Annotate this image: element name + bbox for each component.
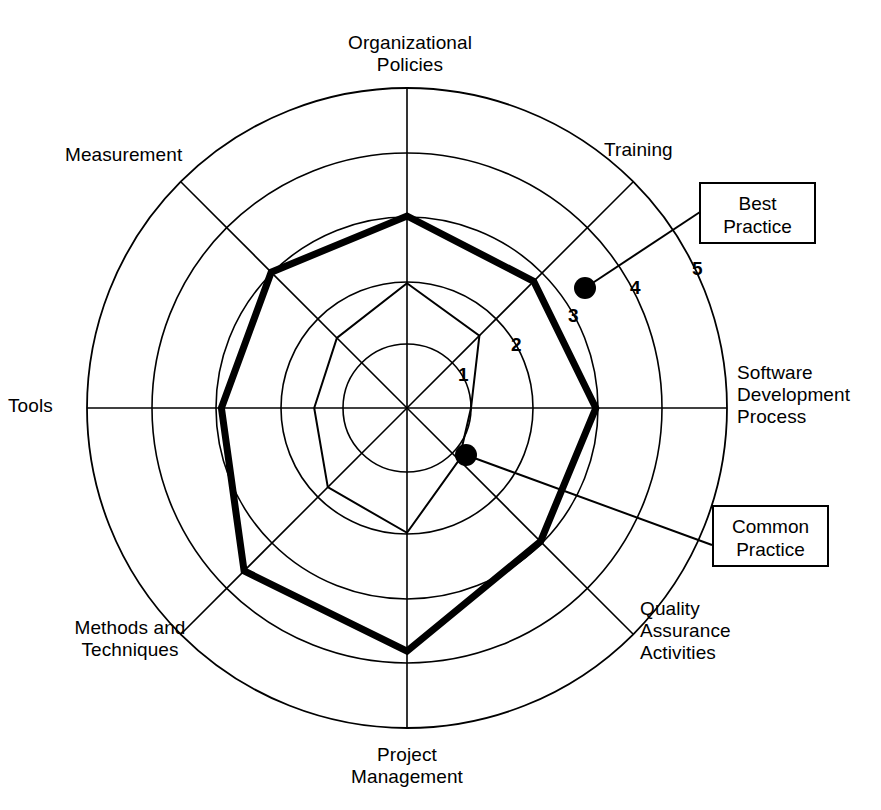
legend-best-practice[interactable]: Best Practice xyxy=(699,182,816,244)
axis-label-organizational-policies: Organizational Policies xyxy=(330,32,490,76)
tick-label-1: 1 xyxy=(458,364,469,386)
tick-label-2: 2 xyxy=(511,334,522,356)
marker-common-practice xyxy=(455,444,477,466)
spoke-methods-and-techniques xyxy=(181,408,407,634)
tick-label-3: 3 xyxy=(568,305,579,327)
axis-label-methods-and-techniques: Methods and Techniques xyxy=(50,617,210,661)
radar-chart: Organizational Policies Training Softwar… xyxy=(0,0,881,810)
spoke-training xyxy=(407,182,633,408)
axis-label-project-management: Project Management xyxy=(327,744,487,788)
leader-line-best-practice xyxy=(585,212,700,288)
tick-label-4: 4 xyxy=(630,277,641,299)
marker-best-practice xyxy=(574,277,596,299)
axis-label-software-development-process: Software Development Process xyxy=(737,362,877,428)
tick-label-5: 5 xyxy=(692,258,703,280)
axis-label-quality-assurance-activities: Quality Assurance Activities xyxy=(640,598,770,664)
spoke-measurement xyxy=(181,182,407,408)
axis-label-measurement: Measurement xyxy=(65,144,215,166)
axis-label-training: Training xyxy=(604,139,714,161)
axis-label-tools: Tools xyxy=(8,395,78,417)
legend-common-practice[interactable]: Common Practice xyxy=(712,505,829,567)
spoke-quality-assurance-activities xyxy=(407,408,633,634)
